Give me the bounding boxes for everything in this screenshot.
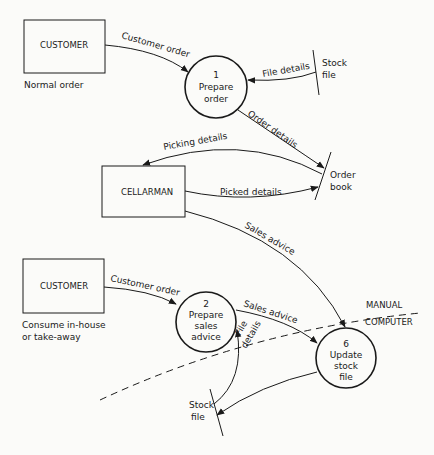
flow-order-details: Order details <box>238 108 324 168</box>
entity-label: CELLARMAN <box>121 187 173 197</box>
data-store-stock-file-bottom: Stock file <box>189 389 223 436</box>
svg-text:Consume in-house: Consume in-house <box>22 320 106 330</box>
process-1-prepare-order: 1 Prepare order <box>185 56 247 118</box>
process-6-update-stock-file: 6 Update stock file <box>316 328 376 388</box>
flow-picked-details: Picked details <box>185 187 318 197</box>
external-entity-customer-in-house: CUSTOMER Consume in-house or take-away <box>22 259 106 342</box>
svg-text:Order: Order <box>330 170 356 180</box>
svg-text:book: book <box>330 182 353 192</box>
entity-caption: Normal order <box>24 80 84 90</box>
svg-text:Customer order: Customer order <box>110 273 181 298</box>
svg-text:Prepare: Prepare <box>199 82 234 92</box>
svg-text:2: 2 <box>203 299 209 309</box>
data-store-order-book: Order book <box>315 152 356 200</box>
data-store-stock-file-top: Stock file <box>313 50 348 95</box>
external-entity-cellarman: CELLARMAN <box>102 166 185 217</box>
svg-text:sales: sales <box>195 321 218 331</box>
entity-label: CUSTOMER <box>40 40 88 50</box>
svg-text:1: 1 <box>213 70 219 80</box>
process-2-prepare-sales-advice: 2 Prepare sales advice <box>176 292 236 352</box>
svg-text:6: 6 <box>343 339 349 349</box>
svg-text:file: file <box>191 412 205 422</box>
flow-customer-order-1: Customer order <box>105 30 191 72</box>
svg-text:MANUAL: MANUAL <box>366 300 403 310</box>
svg-text:Sales advice: Sales advice <box>243 220 297 257</box>
entity-label: CUSTOMER <box>40 281 88 291</box>
svg-text:stock: stock <box>334 361 359 371</box>
flow-update-to-stock-file <box>217 372 317 415</box>
svg-text:advice: advice <box>191 332 221 342</box>
flow-file-details-bottom: File details <box>214 319 263 404</box>
svg-text:Sales advice: Sales advice <box>242 298 299 325</box>
svg-text:Prepare: Prepare <box>189 310 224 320</box>
external-entity-customer-normal: CUSTOMER Normal order <box>24 20 105 90</box>
svg-text:order: order <box>204 94 228 104</box>
svg-text:file: file <box>322 70 336 80</box>
svg-text:Stock: Stock <box>189 400 215 410</box>
svg-text:Picked details: Picked details <box>220 187 282 197</box>
svg-text:COMPUTER: COMPUTER <box>365 317 413 327</box>
svg-text:or take-away: or take-away <box>22 332 81 342</box>
svg-text:file: file <box>339 372 353 382</box>
flow-file-details-top: File details <box>248 61 316 81</box>
flow-customer-order-2: Customer order <box>104 273 181 304</box>
svg-text:Picking details: Picking details <box>163 131 229 152</box>
svg-text:Update: Update <box>330 350 363 360</box>
data-flow-diagram: CUSTOMER Normal order 1 Prepare order St… <box>0 0 434 455</box>
flow-picking-details: Picking details <box>143 131 322 174</box>
svg-text:Order details: Order details <box>246 108 300 150</box>
svg-text:Stock: Stock <box>322 58 348 68</box>
